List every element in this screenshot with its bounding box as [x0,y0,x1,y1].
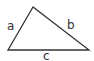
triangle-shape [8,7,89,50]
triangle-diagram: a b c [0,0,94,61]
side-label-b: b [67,18,75,32]
side-label-c: c [43,49,50,61]
side-label-a: a [7,19,14,33]
